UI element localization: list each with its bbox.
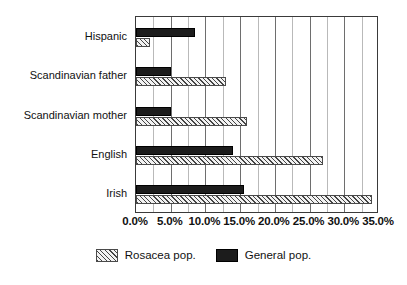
bar-general-pop xyxy=(136,146,233,155)
bar-group xyxy=(136,107,377,127)
plot-area xyxy=(135,16,378,213)
x-tick-label: 25.0% xyxy=(293,215,325,227)
bar-rosacea-pop xyxy=(136,77,226,86)
category-axis-labels: HispanicScandinavian fatherScandinavian … xyxy=(0,16,131,213)
bar-general-pop xyxy=(136,67,171,76)
bar-rosacea-pop xyxy=(136,38,150,47)
bar-group xyxy=(136,67,377,87)
x-tick-label: 15.0% xyxy=(223,215,255,227)
category-label: Scandinavian father xyxy=(30,70,127,81)
bar-general-pop xyxy=(136,28,195,37)
x-tick-label: 5.0% xyxy=(157,215,182,227)
category-label: Scandinavian mother xyxy=(24,110,127,121)
bars-layer xyxy=(136,17,377,212)
legend-swatch-rosacea xyxy=(96,249,118,262)
category-label: Hispanic xyxy=(85,31,127,42)
legend-item: Rosacea pop. xyxy=(96,249,196,262)
legend-item: General pop. xyxy=(216,249,312,262)
legend-swatch-general xyxy=(216,249,238,262)
legend-label: General pop. xyxy=(245,249,312,261)
x-tick-label: 10.0% xyxy=(189,215,221,227)
legend-label: Rosacea pop. xyxy=(125,249,196,261)
chart-legend: Rosacea pop.General pop. xyxy=(0,243,407,267)
x-tick-label: 0.0% xyxy=(122,215,147,227)
bar-rosacea-pop xyxy=(136,117,247,126)
bar-chart: HispanicScandinavian fatherScandinavian … xyxy=(0,0,407,285)
bar-rosacea-pop xyxy=(136,195,372,204)
category-label: Irish xyxy=(106,188,127,199)
bar-group xyxy=(136,28,377,48)
x-axis-tick-labels: 0.0%5.0%10.0%15.0%20.0%25.0%30.0%35.0% xyxy=(0,215,407,233)
bar-rosacea-pop xyxy=(136,156,323,165)
bar-group xyxy=(136,146,377,166)
x-tick-label: 35.0% xyxy=(362,215,394,227)
bar-general-pop xyxy=(136,185,244,194)
category-label: English xyxy=(91,149,127,160)
bar-group xyxy=(136,185,377,205)
x-tick-label: 30.0% xyxy=(327,215,359,227)
bar-general-pop xyxy=(136,107,171,116)
x-tick-label: 20.0% xyxy=(258,215,290,227)
